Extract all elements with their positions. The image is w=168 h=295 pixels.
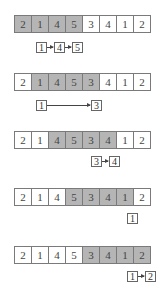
- array-cell-in-window: 5: [65, 131, 83, 149]
- array-cell-in-window: 3: [82, 188, 100, 206]
- array-cell-in-window: 5: [65, 15, 83, 33]
- chain-step-1: 145: [0, 42, 168, 53]
- array-cell: 2: [14, 73, 32, 91]
- array-row-step-1: 21453412: [14, 15, 151, 33]
- array-cell: 2: [14, 188, 32, 206]
- array-cell: 2: [133, 188, 151, 206]
- array-cell: 4: [99, 15, 117, 33]
- arrow-right-icon: [47, 105, 90, 106]
- array-cell: 2: [133, 73, 151, 91]
- array-cell: 2: [14, 246, 32, 264]
- chain-node: 2: [145, 271, 156, 282]
- array-cell: 2: [14, 131, 32, 149]
- arrow-right-icon: [102, 161, 108, 162]
- chain-node: 5: [72, 42, 83, 53]
- chain-node: 3: [91, 100, 102, 111]
- array-cell: 4: [48, 188, 66, 206]
- array-cell-in-window: 3: [82, 246, 100, 264]
- array-cell-in-window: 4: [99, 188, 117, 206]
- array-cell: 4: [48, 246, 66, 264]
- array-cell: 1: [116, 73, 134, 91]
- array-cell: 2: [133, 15, 151, 33]
- array-row-step-3: 21453412: [14, 131, 151, 149]
- arrow-right-icon: [47, 47, 53, 48]
- array-cell: 1: [116, 131, 134, 149]
- array-cell-in-window: 4: [48, 15, 66, 33]
- chain-node: 4: [109, 156, 120, 167]
- array-cell: 5: [65, 246, 83, 264]
- array-cell-in-window: 1: [116, 188, 134, 206]
- array-row-step-2: 21453412: [14, 73, 151, 91]
- array-cell: 4: [99, 73, 117, 91]
- arrow-right-icon: [65, 47, 71, 48]
- array-cell: 1: [116, 15, 134, 33]
- chain-step-4: 1: [0, 213, 168, 224]
- array-cell-in-window: 4: [99, 246, 117, 264]
- array-cell-in-window: 4: [48, 131, 66, 149]
- array-cell: 1: [31, 246, 49, 264]
- chain-node: 4: [54, 42, 65, 53]
- array-cell: 3: [82, 15, 100, 33]
- arrow-right-icon: [138, 276, 144, 277]
- array-cell-in-window: 5: [65, 73, 83, 91]
- chain-node: 3: [91, 156, 102, 167]
- array-row-step-4: 21453412: [14, 188, 151, 206]
- chain-node: 1: [127, 213, 138, 224]
- array-cell-in-window: 3: [82, 131, 100, 149]
- chain-step-5: 12: [0, 271, 168, 282]
- chain-node: 1: [36, 42, 47, 53]
- array-cell-in-window: 3: [82, 73, 100, 91]
- chain-step-2: 13: [0, 100, 168, 111]
- chain-step-3: 34: [0, 156, 168, 167]
- array-cell: 1: [31, 131, 49, 149]
- array-cell-in-window: 1: [31, 73, 49, 91]
- array-cell-in-window: 2: [14, 15, 32, 33]
- array-cell-in-window: 4: [99, 131, 117, 149]
- array-cell-in-window: 4: [48, 73, 66, 91]
- array-cell: 2: [133, 131, 151, 149]
- chain-node: 1: [127, 271, 138, 282]
- array-cell-in-window: 1: [116, 246, 134, 264]
- array-cell-in-window: 2: [133, 246, 151, 264]
- array-cell-in-window: 5: [65, 188, 83, 206]
- array-cell: 1: [31, 188, 49, 206]
- chain-node: 1: [36, 100, 47, 111]
- array-cell-in-window: 1: [31, 15, 49, 33]
- array-row-step-5: 21453412: [14, 246, 151, 264]
